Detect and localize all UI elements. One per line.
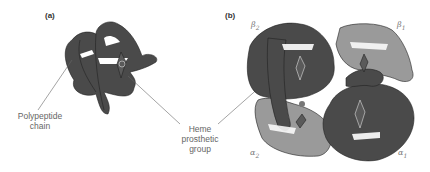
callout-heme-line2: prosthetic [170,134,230,144]
callout-polypeptide-chain: Polypeptide chain [8,111,72,131]
chain-body-a [65,22,157,114]
chain-hole [121,98,127,104]
leader-line-polypeptide [38,60,72,110]
hemoglobin-tetramer [247,23,414,161]
callout-heme-line1: Heme [170,124,230,134]
myoglobin-chain [65,22,157,114]
alpha2-hole [299,101,305,107]
gap-b2 [282,44,314,50]
subunit-beta2-shape [247,23,334,99]
subunit-alpha2-shape [255,98,331,156]
panel-label-b: (b) [225,11,235,20]
subunit-label-beta1: β1 [397,20,405,31]
leader-line-heme-a [128,76,180,124]
subunit-label-alpha2: α2 [250,148,259,159]
subunit-label-alpha1: α1 [398,148,407,159]
panel-label-a: (a) [45,11,55,20]
callout-heme-line3: group [170,144,230,154]
callout-polypeptide-line1: Polypeptide [8,111,72,121]
callout-heme-prosthetic-group: Heme prosthetic group [170,124,230,154]
subunit-label-beta2: β2 [251,20,259,31]
callout-polypeptide-line2: chain [8,121,72,131]
subunit-alpha1-coil [346,69,383,86]
